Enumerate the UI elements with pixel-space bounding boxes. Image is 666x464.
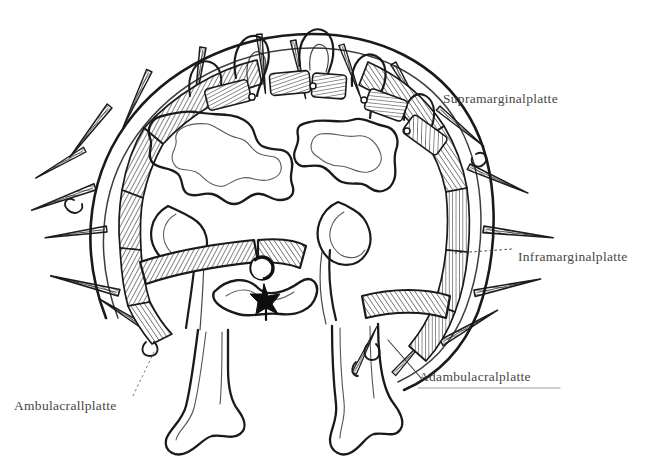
label-ambulacralplatte: Ambulacrallplatte <box>14 398 117 414</box>
label-supramarginalplatte: Supramarginalplatte <box>443 91 558 107</box>
figure-canvas: Supramarginalplatte Inframarginalplatte … <box>0 0 666 464</box>
ambulacral-ossicles <box>140 239 450 318</box>
label-inframarginalplatte: Inframarginalplatte <box>518 249 628 265</box>
leader-ambulacral <box>132 352 154 398</box>
label-adambulacralplatte: Adambulacralplatte <box>419 369 531 385</box>
pyloric-caeca-group <box>149 111 398 204</box>
marginal-plates-group <box>119 60 469 361</box>
starfish-arm-cross-section-illustration <box>0 0 666 464</box>
